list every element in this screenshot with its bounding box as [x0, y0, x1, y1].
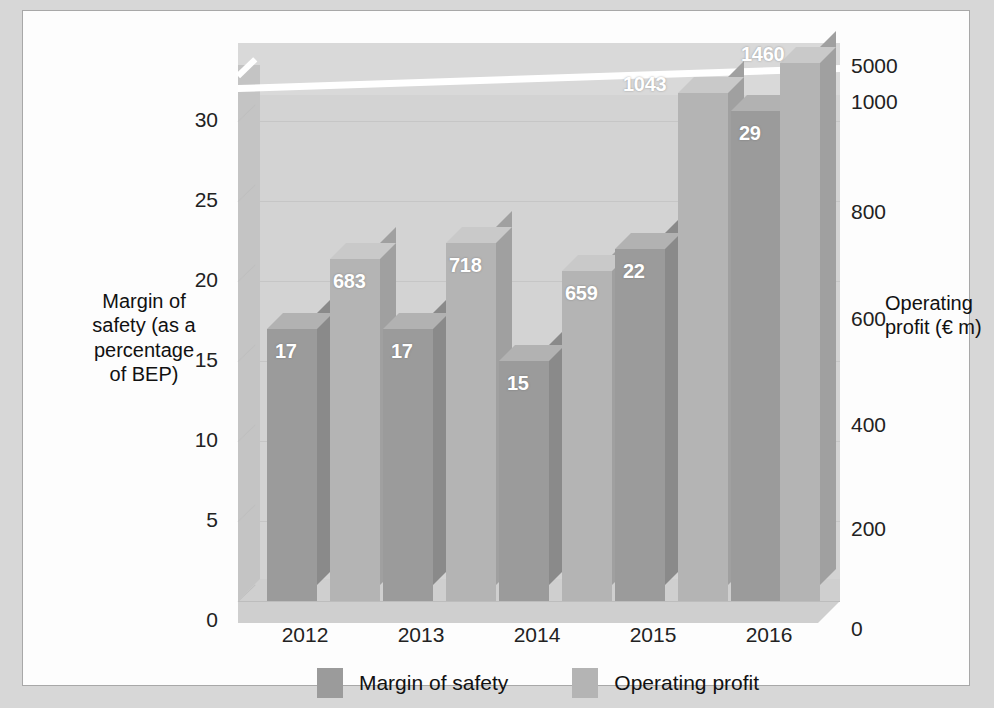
legend-item-margin-of-safety: Margin of safety [317, 668, 508, 698]
y2-axis-tick-5000: 5000 [851, 55, 911, 76]
bar-front [267, 329, 317, 601]
bar-margin-of-safety-2015 [615, 249, 665, 601]
x-axis-label-2012: 2012 [250, 623, 360, 647]
x-axis-label-2014: 2014 [482, 623, 592, 647]
bar-front [562, 271, 612, 601]
y-axis-tick-10: 10 [178, 429, 218, 450]
bar-value-label: 29 [739, 122, 761, 145]
bar-front [330, 259, 380, 601]
bar-operating-profit-2013 [446, 243, 496, 601]
y2-axis-tick-0: 0 [851, 618, 911, 639]
bar-front [780, 63, 820, 601]
bar-front [499, 361, 549, 601]
y-axis-tick-5: 5 [178, 509, 218, 530]
y2-axis-title-line-2: profit (€ m) [885, 315, 994, 339]
legend-swatch-icon [317, 668, 343, 698]
grouped-bar-chart: 17 683 17 718 [23, 11, 994, 708]
legend-label: Margin of safety [359, 671, 508, 695]
bar-operating-profit-2015 [678, 93, 728, 601]
bar-front [731, 111, 781, 601]
y2-axis-tick-400: 400 [851, 414, 911, 435]
y2-axis-tick-800: 800 [851, 201, 911, 222]
bar-margin-of-safety-2012 [267, 329, 317, 601]
y2-axis-tick-1000: 1000 [851, 91, 911, 112]
bar-side [820, 31, 836, 585]
bar-front [446, 243, 496, 601]
y-axis-title: Margin of safety (as a percentage of BEP… [69, 289, 219, 387]
bar-operating-profit-2014 [562, 271, 612, 601]
bar-value-label: 1043 [623, 73, 666, 96]
bar-front [383, 329, 433, 601]
bar-value-label: 683 [333, 270, 365, 293]
bar-value-label: 17 [391, 340, 413, 363]
y-axis-title-line-2: safety (as a [69, 313, 219, 337]
bar-front [615, 249, 665, 601]
bar-margin-of-safety-2014 [499, 361, 549, 601]
y2-axis-title-line-1: Operating [885, 291, 994, 315]
bar-value-label: 1460 [741, 43, 784, 66]
bar-operating-profit-2016 [780, 63, 820, 601]
y-axis-title-line-1: Margin of [69, 289, 219, 313]
legend-item-operating-profit: Operating profit [572, 668, 759, 698]
plot-floor-edge [238, 601, 840, 602]
y-axis-tick-0: 0 [178, 609, 218, 630]
bar-operating-profit-2012 [330, 259, 380, 601]
bar-margin-of-safety-2016 [731, 111, 781, 601]
bar-front [678, 93, 728, 601]
legend-swatch-icon [572, 668, 598, 698]
chart-legend: Margin of safety Operating profit [238, 663, 838, 703]
plot-left-wall [238, 43, 260, 623]
bar-value-label: 718 [449, 254, 481, 277]
y-axis-tick-25: 25 [178, 189, 218, 210]
bar-value-label: 17 [275, 340, 297, 363]
y-axis-tick-30: 30 [178, 109, 218, 130]
y-axis-tick-20: 20 [178, 269, 218, 290]
y-axis-title-line-3: percentage [69, 338, 219, 362]
bar-value-label: 22 [623, 260, 645, 283]
y2-axis-tick-200: 200 [851, 518, 911, 539]
page-background: 17 683 17 718 [0, 0, 994, 708]
y2-axis-title: Operating profit (€ m) [885, 291, 994, 340]
legend-label: Operating profit [614, 671, 759, 695]
x-axis-label-2016: 2016 [714, 623, 824, 647]
bar-value-label: 659 [565, 282, 597, 305]
y-axis-title-line-4: of BEP) [69, 362, 219, 386]
bar-margin-of-safety-2013 [383, 329, 433, 601]
bar-value-label: 15 [507, 372, 529, 395]
x-axis-label-2015: 2015 [598, 623, 708, 647]
x-axis-label-2013: 2013 [366, 623, 476, 647]
chart-frame: 17 683 17 718 [22, 10, 970, 686]
